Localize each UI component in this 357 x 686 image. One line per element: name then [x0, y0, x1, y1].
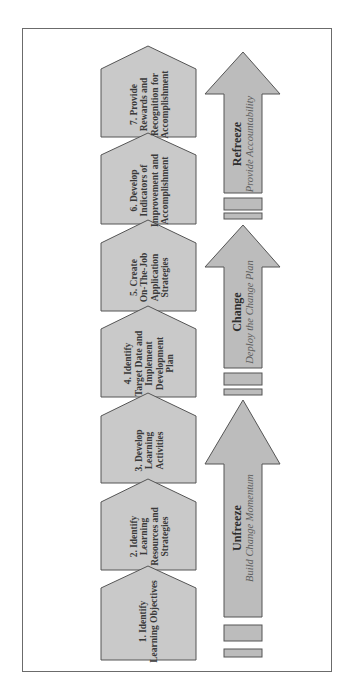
change-bar-1 — [224, 373, 262, 385]
phase-unfreeze-title: Unfreeze — [231, 505, 244, 551]
step-4-label: 4. Identify Target Date and Implement De… — [123, 331, 176, 397]
refreeze-bar-2 — [224, 213, 262, 219]
phase-refreeze-title: Refreeze — [231, 122, 244, 166]
step-3: 3. Develop Learning Activities — [102, 412, 197, 490]
unfreeze-bar-2 — [224, 649, 262, 657]
step-6-label: 6. Develop Indicators of Improvement and… — [128, 154, 170, 227]
step-2-label: 2. Identify Learning Resources and Strat… — [128, 507, 170, 566]
refreeze-bar-1 — [224, 198, 262, 210]
step-2: 2. Identify Learning Resources and Strat… — [102, 498, 197, 576]
step-1: 1. Identify Learning Objectives — [101, 578, 196, 666]
step-7-label: 7. Provide Rewards and Recognition for A… — [128, 70, 170, 138]
phase-change: Change Deploy the Change Plan — [225, 252, 261, 372]
unfreeze-bar-1 — [224, 625, 262, 641]
step-3-label: 3. Develop Learning Activities — [133, 429, 165, 471]
phase-change-title: Change — [231, 292, 244, 331]
phase-change-subtitle: Deploy the Change Plan — [244, 260, 256, 364]
step-1-label: 1. Identify Learning Objectives — [138, 580, 159, 663]
change-bar-2 — [224, 389, 262, 395]
step-5-label: 5. Create On-The-Job Application Strateg… — [128, 253, 170, 303]
step-7: 7. Provide Rewards and Recognition for A… — [102, 66, 197, 144]
phase-refreeze-subtitle: Provide Accountability — [244, 96, 256, 193]
step-5: 5. Create On-The-Job Application Strateg… — [102, 239, 197, 317]
phase-unfreeze: Unfreeze Build Change Momentum — [225, 463, 261, 593]
phase-refreeze: Refreeze Provide Accountability — [225, 94, 261, 194]
phase-unfreeze-subtitle: Build Change Momentum — [244, 474, 256, 582]
step-6: 6. Develop Indicators of Improvement and… — [102, 152, 197, 230]
step-4: 4. Identify Target Date and Implement De… — [102, 325, 197, 403]
